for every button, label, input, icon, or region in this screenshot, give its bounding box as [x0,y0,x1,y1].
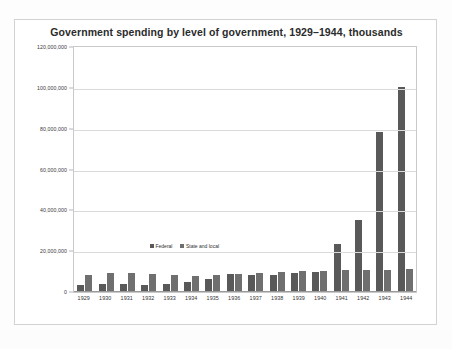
bar [184,282,191,291]
x-axis-tick-label: 1935 [202,295,224,301]
bar [248,275,255,291]
bar-group [202,45,223,291]
bar-groups [74,45,416,291]
legend-swatch-icon-federal [150,244,154,248]
bar [312,272,319,291]
x-axis-tick-label: 1942 [353,295,375,301]
bar [299,271,306,291]
bar-group [224,45,245,291]
bar [205,279,212,291]
bar [342,270,349,291]
page-margin-band [0,330,452,349]
gridline [74,130,416,131]
bar [320,271,327,291]
bar-group [288,45,309,291]
bar [171,275,178,291]
bar-group [395,45,416,291]
bar [163,284,170,291]
x-axis-tick-label: 1936 [224,295,246,301]
bar-group [266,45,287,291]
bar-group [138,45,159,291]
bar [227,274,234,291]
bar [398,87,405,291]
x-axis-tick-label: 1932 [138,295,160,301]
y-axis-tick-label: 40,000,000 [40,207,67,213]
x-axis-tick-label: 1939 [288,295,310,301]
bar [334,244,341,291]
y-axis-tick-label: 100,000,000 [37,85,67,91]
x-axis-tick-label: 1941 [331,295,353,301]
bar [355,220,362,291]
legend-item-state-and-local: State and local [180,243,219,249]
x-axis-tick-label: 1929 [73,295,95,301]
bar [192,276,199,291]
legend-item-federal: Federal [150,243,172,249]
x-axis-tick-label: 1933 [159,295,181,301]
bar [270,275,277,291]
legend-label-federal: Federal [156,243,173,249]
bar-group [95,45,116,291]
x-axis-tick-label: 1931 [116,295,138,301]
bar [213,275,220,291]
bar [235,274,242,291]
bar [291,273,298,291]
bar [128,273,135,291]
x-axis-tick-label: 1940 [310,295,332,301]
y-axis-tick-label: 20,000,000 [40,248,67,254]
x-axis-tick-label: 1934 [181,295,203,301]
bar [363,270,370,291]
bar [406,269,413,291]
x-axis-tick-label: 1937 [245,295,267,301]
y-axis-tick-label: 60,000,000 [40,167,67,173]
bar-group [373,45,394,291]
bar [85,275,92,291]
bar-group [309,45,330,291]
legend-swatch-icon-state-and-local [180,244,184,248]
y-axis-tick-label: 80,000,000 [40,126,67,132]
gridline [74,89,416,90]
bar-group [331,45,352,291]
bar [120,284,127,291]
bar [107,273,114,291]
bar-group [160,45,181,291]
y-axis-tick-label: 120,000,000 [37,44,67,50]
gridline [74,252,416,253]
bar-group [181,45,202,291]
bar [278,272,285,291]
y-axis-tick-label: 0 [64,289,67,295]
bar [149,274,156,291]
gridline [74,171,416,172]
plot-area: Federal State and local [73,46,417,293]
chart-title: Government spending by level of governme… [15,26,438,38]
x-axis-tick-label: 1938 [267,295,289,301]
bar-group [117,45,138,291]
x-axis-labels: 1929193019311932193319341935193619371938… [73,295,417,301]
bar-group [74,45,95,291]
bar-group [245,45,266,291]
x-axis-tick-label: 1943 [374,295,396,301]
gridline [74,211,416,212]
y-axis: 120,000,000100,000,00080,000,00060,000,0… [15,46,73,293]
scanned-page: Government spending by level of governme… [0,0,452,349]
bar [384,270,391,291]
bar [99,284,106,291]
chart-container: Government spending by level of governme… [14,19,437,325]
x-axis-tick-label: 1944 [396,295,418,301]
bar [256,273,263,291]
x-axis-line [74,291,416,292]
chart-legend: Federal State and local [150,243,219,249]
legend-label-state-and-local: State and local [186,243,219,249]
x-axis-tick-label: 1930 [95,295,117,301]
bar-group [352,45,373,291]
